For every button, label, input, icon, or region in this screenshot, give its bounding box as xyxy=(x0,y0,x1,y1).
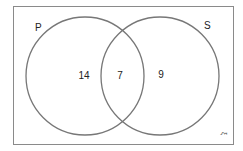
intersection-count: 7 xyxy=(117,71,123,81)
universal-set-symbol: ξ xyxy=(221,132,228,135)
set-s-only-count: 9 xyxy=(158,70,164,80)
universal-set-rectangle xyxy=(14,7,234,145)
set-s-label: S xyxy=(204,21,211,31)
set-p-label: P xyxy=(35,23,42,33)
set-p-only-count: 14 xyxy=(78,71,89,81)
